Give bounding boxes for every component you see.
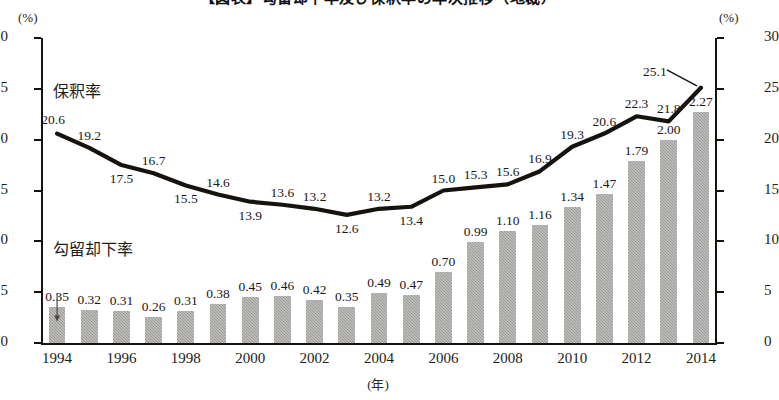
line-value-label: 13.2 [356,189,402,205]
right-tick-label: 5 [764,282,772,299]
right-tick-mark [717,291,724,293]
line-value-label: 13.4 [388,213,434,229]
line-value-label: 13.2 [292,189,338,205]
line-value-label: 17.5 [98,171,144,187]
right-axis-unit: (%) [719,10,739,26]
right-tick-label: 30 [764,28,779,45]
left-tick-label: 1.0 [0,231,8,248]
x-axis-tick-label: 2002 [285,350,345,367]
x-axis-tick-label: 1998 [156,350,216,367]
left-tick-mark [34,240,41,242]
line-value-label: 15.5 [163,191,209,207]
left-tick-label: 2.0 [0,130,8,147]
line-value-label: 13.9 [227,208,273,224]
x-axis-tick-label: 2006 [413,350,473,367]
left-tick-label: 1.5 [0,181,8,198]
right-tick-label: 20 [764,130,779,147]
right-tick-mark [717,37,724,39]
left-tick-label: 3.0 [0,28,8,45]
right-tick-mark [717,88,724,90]
x-axis-tick-label: 2010 [542,350,602,367]
chart-title: 【図表】勾留却下率及び保釈率の年次推移（地裁） [0,0,756,7]
right-tick-mark [717,240,724,242]
plot-area: 0.00.51.01.52.02.53.0 051015202530 0.350… [41,38,717,345]
left-tick-label: 0.5 [0,282,8,299]
series-label-detention-denial-rate: 勾留却下率 [53,236,133,260]
x-axis-tick-label: 2008 [478,350,538,367]
line-value-label: 21.8 [646,101,692,117]
left-tick-mark [34,139,41,141]
left-axis-unit: (%) [18,10,38,26]
left-tick-mark [34,88,41,90]
left-tick-label: 0.0 [0,333,8,350]
line-value-label: 14.6 [195,175,241,191]
line-value-label: 16.7 [131,153,177,169]
right-tick-label: 25 [764,79,779,96]
left-tick-mark [34,37,41,39]
x-axis-tick-label: 2004 [349,350,409,367]
x-axis-tick-label: 1994 [27,350,87,367]
x-axis-tick-label: 2000 [220,350,280,367]
x-axis-tick-label: 2012 [607,350,667,367]
right-tick-label: 15 [764,181,779,198]
x-axis-title: (年) [0,374,756,393]
line-value-label: 25.1 [632,64,678,80]
right-tick-label: 10 [764,231,779,248]
line-value-label: 12.6 [324,221,370,237]
right-tick-label: 0 [764,333,772,350]
left-tick-label: 2.5 [0,79,8,96]
line-value-label: 16.9 [517,151,563,167]
left-tick-mark [34,190,41,192]
left-tick-mark [34,342,41,344]
right-tick-mark [717,342,724,344]
right-tick-mark [717,190,724,192]
x-axis-tick-label: 1996 [91,350,151,367]
line-value-label: 20.6 [30,112,76,128]
series-label-bail-rate: 保釈率 [53,78,101,102]
line-value-label: 20.6 [581,114,627,130]
right-tick-mark [717,139,724,141]
line-value-label: 19.2 [66,128,112,144]
x-axis-tick-label: 2014 [671,350,731,367]
first-bar-leader-arrow [54,315,60,321]
chart-title-clipped: 【図表】勾留却下率及び保釈率の年次推移（地裁） [0,0,756,9]
